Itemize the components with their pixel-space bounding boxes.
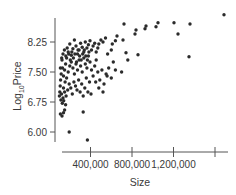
data-point	[71, 92, 74, 95]
data-point	[71, 66, 74, 69]
data-point	[91, 44, 94, 47]
data-point	[67, 52, 70, 55]
data-point	[63, 48, 66, 51]
data-point	[84, 54, 87, 57]
data-point	[79, 64, 82, 67]
data-point	[110, 76, 113, 79]
data-point	[60, 56, 63, 59]
data-point	[96, 70, 99, 73]
data-point	[105, 74, 108, 77]
data-point	[78, 90, 81, 93]
data-point	[64, 62, 67, 65]
data-point	[68, 82, 71, 85]
data-point	[76, 68, 79, 71]
data-point	[82, 110, 85, 113]
data-point	[75, 60, 78, 63]
data-point	[121, 38, 124, 41]
y-tick-label: 7.50	[28, 67, 48, 78]
data-points	[58, 13, 226, 142]
data-point	[88, 39, 91, 42]
data-point	[66, 46, 69, 49]
data-point	[97, 86, 100, 89]
data-point	[63, 90, 66, 93]
y-axis: 6.006.757.508.25	[28, 18, 55, 142]
x-tick-label: 400,000	[72, 159, 109, 170]
data-point	[124, 51, 127, 54]
data-point	[90, 68, 93, 71]
data-point	[222, 13, 225, 16]
data-point	[71, 47, 74, 50]
data-point	[188, 22, 191, 25]
data-point	[59, 84, 62, 87]
data-point	[104, 36, 107, 39]
data-point	[64, 103, 67, 106]
data-point	[62, 99, 65, 102]
data-point	[126, 58, 129, 61]
data-point	[176, 32, 179, 35]
data-point	[95, 58, 98, 61]
data-point	[115, 34, 118, 37]
data-point	[172, 21, 175, 24]
data-point	[61, 52, 64, 55]
y-tick-label: 6.75	[28, 97, 48, 108]
data-point	[68, 130, 71, 133]
data-point	[102, 82, 105, 85]
data-point	[97, 42, 100, 45]
data-point	[144, 24, 147, 27]
data-point	[134, 28, 137, 31]
data-point	[68, 42, 71, 45]
data-point	[107, 66, 110, 69]
data-point	[64, 94, 67, 97]
y-tick-label: 8.25	[28, 37, 48, 48]
data-point	[63, 108, 66, 111]
x-axis-title: Size	[130, 176, 151, 188]
data-point	[79, 42, 82, 45]
data-point	[65, 76, 68, 79]
data-point	[85, 66, 88, 69]
data-point	[72, 80, 75, 83]
data-point	[75, 88, 78, 91]
data-point	[98, 78, 101, 81]
data-point	[156, 21, 159, 24]
data-point	[114, 68, 117, 71]
data-point	[67, 70, 70, 73]
data-point	[93, 64, 96, 67]
data-point	[114, 39, 117, 42]
data-point	[96, 46, 99, 49]
data-point	[84, 62, 87, 65]
data-point	[101, 90, 104, 93]
data-point	[86, 138, 89, 141]
data-point	[154, 25, 157, 28]
data-point	[60, 72, 63, 75]
y-axis-title: Log10Price	[11, 61, 25, 110]
data-point	[74, 44, 77, 47]
data-point	[74, 84, 77, 87]
data-point	[72, 56, 75, 59]
data-point	[95, 50, 98, 53]
data-point	[111, 42, 114, 45]
data-point	[85, 76, 88, 79]
data-point	[80, 58, 83, 61]
data-point	[136, 53, 139, 56]
data-point	[106, 52, 109, 55]
data-point	[187, 55, 190, 58]
data-point	[81, 70, 84, 73]
data-point	[84, 40, 87, 43]
data-point	[66, 88, 69, 91]
data-point	[81, 46, 84, 49]
data-point	[73, 72, 76, 75]
data-point	[83, 48, 86, 51]
data-point	[82, 94, 85, 97]
x-tick-label: 800,000	[114, 159, 151, 170]
data-point	[60, 92, 63, 95]
data-point	[73, 52, 76, 55]
data-point	[70, 50, 73, 53]
data-point	[87, 50, 90, 53]
data-point	[78, 54, 81, 57]
data-point	[80, 82, 83, 85]
data-point	[68, 64, 71, 67]
data-point	[94, 80, 97, 83]
data-point	[122, 22, 125, 25]
data-point	[86, 90, 89, 93]
data-point	[91, 74, 94, 77]
